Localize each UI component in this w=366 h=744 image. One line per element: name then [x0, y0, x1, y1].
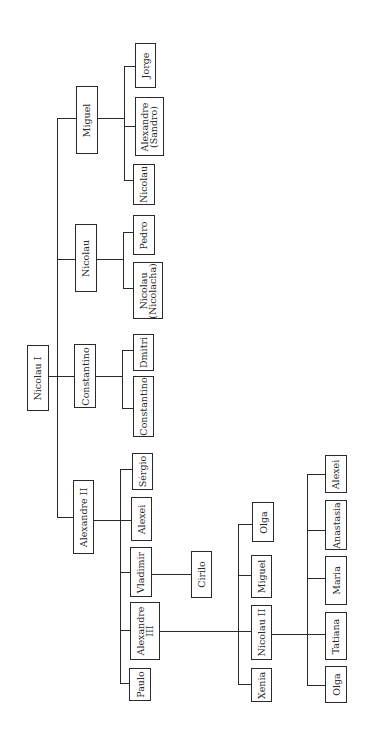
connector: [57, 118, 76, 119]
node-constantino-son: Constantino: [133, 376, 154, 437]
node-label: Paulo: [136, 671, 145, 698]
node-label: Alexandre (Sandro): [141, 102, 159, 151]
node-nicolau: Nicolau: [75, 224, 97, 292]
node-constantino: Constantino: [74, 344, 96, 408]
node-label: Miguel: [83, 103, 92, 137]
node-xenia: Xenia: [251, 668, 272, 702]
main-spine: [57, 118, 58, 518]
node-label: Pedro: [140, 221, 149, 249]
connector: [93, 520, 120, 521]
connector: [122, 350, 133, 351]
connector: [124, 180, 133, 181]
node-label: Constantino: [139, 377, 148, 435]
connector: [120, 630, 130, 631]
node-label: Alexei: [332, 459, 341, 489]
node-label: Jorge: [141, 53, 150, 79]
node-label: Nicolau I: [34, 356, 43, 400]
connector: [307, 474, 325, 475]
connector: [57, 259, 75, 260]
connector: [238, 684, 251, 685]
node-maria: Maria: [325, 556, 347, 605]
connector: [123, 232, 133, 233]
connector: [238, 524, 252, 525]
node-nicolau-son-of-miguel: Nicolau: [133, 164, 155, 205]
connector: [307, 578, 325, 579]
branch-spine: [307, 474, 308, 685]
connector: [307, 685, 325, 686]
node-pedro: Pedro: [133, 215, 155, 255]
node-alexandre-iii: Alexandre III: [130, 602, 160, 660]
connector: [238, 575, 251, 576]
branch-spine: [124, 66, 125, 180]
connector: [124, 66, 135, 67]
node-olga-daughter-of-nicolau-ii: Olga: [325, 666, 347, 703]
node-vladimir: Vladimir: [130, 547, 152, 597]
branch-spine: [123, 232, 124, 288]
node-alexandre-ii: Alexandre II: [73, 480, 94, 554]
node-jorge: Jorge: [135, 43, 156, 88]
node-label: Constantino: [81, 347, 90, 405]
connector: [151, 574, 191, 575]
connector: [97, 118, 124, 119]
node-label: Cirilo: [197, 561, 206, 588]
connector: [120, 572, 130, 573]
connector: [307, 530, 325, 531]
connector: [48, 376, 57, 377]
node-label: Dmitri: [139, 337, 148, 368]
connector: [96, 259, 123, 260]
node-label: Sérgio: [138, 456, 147, 488]
node-alexei-tsarevich: Alexei: [325, 455, 347, 493]
node-label: Olga: [332, 673, 341, 696]
node-nicolau-nicolacha: Nicolau (Nicolacha): [133, 262, 163, 319]
node-label: Olga: [259, 511, 268, 534]
node-miguel: Miguel: [76, 86, 98, 154]
connector: [120, 469, 132, 470]
node-dmitri: Dmitri: [133, 334, 154, 371]
node-label: Miguel: [257, 560, 266, 594]
connector: [120, 520, 131, 521]
node-label: Nicolau II: [257, 609, 266, 657]
connector: [122, 408, 133, 409]
node-paulo: Paulo: [129, 668, 151, 701]
family-tree-diagram: Nicolau I Miguel Nicolau Constantino Ale…: [0, 0, 366, 744]
connector: [57, 376, 74, 377]
node-label: Nicolau: [140, 166, 149, 203]
node-nicolau-ii: Nicolau II: [251, 605, 272, 660]
connector: [57, 517, 73, 518]
node-label: Anastasia: [332, 502, 341, 549]
node-label: Xenia: [257, 671, 266, 698]
node-label: Alexandre III: [136, 607, 154, 656]
node-label: Nicolau (Nicolacha): [139, 263, 157, 319]
node-label: Maria: [332, 566, 341, 595]
node-label: Alexei: [137, 504, 146, 534]
node-miguel-son-of-alexandre-iii: Miguel: [251, 555, 272, 598]
connector: [124, 126, 135, 127]
node-anastasia: Anastasia: [325, 500, 347, 550]
node-cirilo: Cirilo: [191, 551, 212, 598]
node-label: Tatiana: [332, 618, 341, 654]
connector: [271, 634, 325, 635]
node-label: Nicolau: [82, 239, 91, 276]
branch-spine: [122, 350, 123, 408]
node-nicolau-i: Nicolau I: [27, 345, 49, 411]
connector: [120, 683, 129, 684]
node-tatiana: Tatiana: [325, 612, 347, 660]
node-label: Alexandre II: [79, 487, 88, 546]
node-olga-daughter-of-alexandre-iii: Olga: [252, 502, 274, 542]
branch-spine: [238, 524, 239, 684]
connector: [123, 288, 133, 289]
node-sergio: Sérgio: [132, 453, 153, 490]
connector: [95, 376, 122, 377]
node-label: Vladimir: [137, 551, 146, 592]
branch-spine: [120, 469, 121, 683]
node-alexandre-sandro: Alexandre (Sandro): [135, 97, 164, 156]
node-alexei-son-of-alexandre-ii: Alexei: [131, 497, 152, 541]
